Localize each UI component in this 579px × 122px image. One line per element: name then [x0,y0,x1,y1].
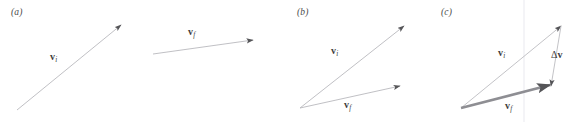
panel-c-label-delta-v: Δv [551,50,562,60]
panel-label-c: (c) [441,7,452,17]
panel-a-label-v-final-subscript: f [193,31,195,39]
panel-a-label-v-initial: vi [50,52,57,64]
panel-c-label-v-initial: vi [498,48,505,60]
panel-b-label-v-initial-subscript: i [336,50,338,58]
panel-c-label-v-final: vf [505,101,512,113]
figure-canvas [0,0,579,122]
panel-a-label-v-initial-subscript: i [55,56,57,64]
panel-a-vector-v-initial [17,25,121,110]
panel-b-label-v-final: vf [344,100,351,112]
panel-b-label-v-initial: vi [331,46,338,58]
panel-b-label-v-final-subscript: f [349,104,351,112]
panel-label-a: (a) [11,7,23,17]
panel-c-label-v-initial-subscript: i [503,52,505,60]
panel-a-label-v-final: vf [188,27,195,39]
panel-a-vector-v-final [153,40,253,54]
panel-c-label-v-final-subscript: f [510,105,512,113]
panel-b-vector-v-initial [300,26,404,108]
panel-c-label-delta-v-symbol: v [557,49,562,60]
panel-label-b: (b) [297,7,309,17]
vector-subtraction-figure: (a) vi vf (b) vi vf (c) vi vf Δv [0,0,579,122]
